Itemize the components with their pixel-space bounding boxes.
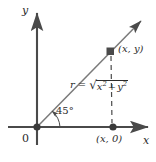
point-label-x-zero: (x, 0) bbox=[96, 134, 122, 144]
x-axis-label: x bbox=[143, 135, 149, 146]
xy-point-marker bbox=[107, 48, 115, 56]
plus-sign: + bbox=[108, 81, 116, 92]
origin-point-marker bbox=[33, 123, 40, 130]
radius-formula-label: r = √ x2+y2 bbox=[70, 80, 128, 92]
coordinate-diagram: y x 0 45° (x, y) (x, 0) r = √ x2+y2 bbox=[0, 0, 156, 162]
x-exponent: 2 bbox=[102, 80, 106, 88]
y-axis-label: y bbox=[22, 5, 28, 16]
y-exponent: 2 bbox=[123, 80, 127, 88]
radicand: x2+y2 bbox=[96, 80, 128, 92]
point-label-xy: (x, y) bbox=[118, 44, 143, 54]
origin-label: 0 bbox=[22, 133, 29, 144]
angle-label-45-degrees: 45° bbox=[56, 106, 74, 116]
square-root-expression: √ x2+y2 bbox=[89, 80, 128, 92]
equals-sign: = bbox=[78, 80, 86, 90]
radius-variable: r bbox=[70, 80, 75, 90]
radical-sign-icon: √ bbox=[89, 79, 97, 91]
foot-point-marker bbox=[109, 123, 116, 130]
